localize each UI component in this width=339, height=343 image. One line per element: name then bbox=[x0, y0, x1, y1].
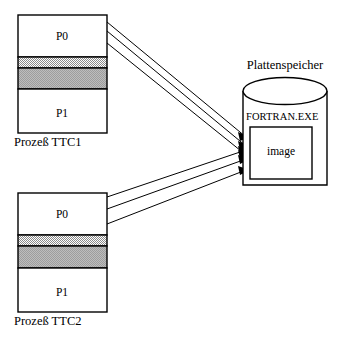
arrow-ttc1-1 bbox=[107, 22, 246, 137]
arrow-ttc2-3 bbox=[107, 170, 246, 224]
region-shared-band-lower-ttc1 bbox=[18, 68, 107, 89]
region-shared-band-upper-ttc1 bbox=[18, 57, 107, 68]
disk-cylinder: FORTRAN.EXE image bbox=[243, 78, 327, 186]
arrow-ttc2-1 bbox=[107, 150, 246, 197]
arrow-group-ttc1 bbox=[107, 22, 246, 155]
region-label-p1-ttc1: P1 bbox=[56, 107, 68, 119]
arrow-ttc1-3 bbox=[107, 43, 246, 155]
region-shared-band-lower-ttc2 bbox=[18, 246, 107, 268]
image-box-label: image bbox=[267, 145, 295, 158]
disk-title: Plattenspeicher bbox=[247, 58, 324, 72]
process-box-ttc1: P0 P1 bbox=[18, 15, 107, 133]
region-label-p1-ttc2: P1 bbox=[56, 286, 68, 298]
disk-file-label: FORTRAN.EXE bbox=[246, 111, 319, 122]
process-box-ttc2: P0 P1 bbox=[18, 193, 107, 312]
region-label-p0-ttc2: P0 bbox=[56, 208, 68, 220]
region-shared-band-upper-ttc2 bbox=[18, 235, 107, 246]
region-label-p0-ttc1: P0 bbox=[56, 30, 68, 42]
process-caption-ttc1: Prozeß TTC1 bbox=[14, 135, 81, 149]
disk-sharing-diagram: P0 P1 Prozeß TTC1 P0 P1 Prozeß TTC2 FORT… bbox=[0, 0, 339, 343]
arrow-ttc2-2 bbox=[107, 159, 246, 209]
arrow-ttc1-2 bbox=[107, 31, 246, 146]
diagram-canvas: P0 P1 Prozeß TTC1 P0 P1 Prozeß TTC2 FORT… bbox=[0, 0, 339, 343]
arrow-group-ttc2 bbox=[107, 150, 246, 224]
process-caption-ttc2: Prozeß TTC2 bbox=[14, 314, 81, 328]
cylinder-top-ellipse bbox=[243, 78, 327, 105]
